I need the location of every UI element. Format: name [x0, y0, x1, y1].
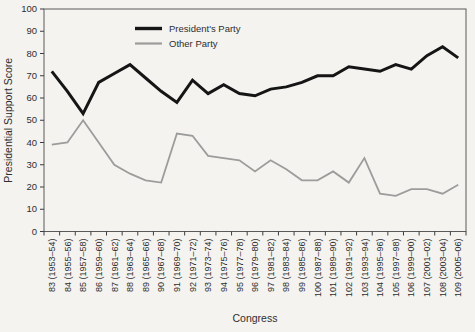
y-tick-label: 40	[26, 137, 37, 148]
x-tick-label: 94 (1975–76)	[219, 239, 229, 293]
x-tick-label: 96 (1979–80)	[250, 239, 260, 293]
x-tick-label: 102 (1991–92)	[344, 239, 354, 298]
plot-frame	[44, 9, 466, 232]
series-line-other-party	[52, 120, 458, 196]
x-tick-label: 97 (1981–82)	[266, 239, 276, 293]
series-line-presidents-party	[52, 47, 458, 114]
x-tick-label: 108 (2003–04)	[438, 239, 448, 298]
x-tick-label: 103 (1993–94)	[360, 239, 370, 298]
legend-label-other-party: Other Party	[169, 38, 218, 49]
x-tick-label: 104 (1995–96)	[375, 239, 385, 298]
x-tick-label: 106 (1999–00)	[406, 239, 416, 298]
x-tick-label: 101 (1989–90)	[328, 239, 338, 298]
y-tick-label: 20	[26, 181, 37, 192]
x-tick-label: 107 (2001–02)	[422, 239, 432, 298]
x-tick-label: 105 (1997–98)	[391, 239, 401, 298]
y-tick-label: 0	[32, 226, 37, 237]
y-tick-label: 80	[26, 48, 37, 59]
x-tick-label: 95 (1977–78)	[235, 239, 245, 293]
y-tick-label: 60	[26, 92, 37, 103]
x-tick-label: 83 (1953–54)	[47, 239, 57, 293]
x-tick-label: 89 (1965–66)	[141, 239, 151, 293]
presidential-support-line-chart: 010203040506070809010083 (1953–54)84 (19…	[0, 0, 475, 332]
x-tick-label: 86 (1959–60)	[94, 239, 104, 293]
x-tick-label: 109 (2005–06)	[453, 239, 463, 298]
x-tick-label: 85 (1957–58)	[78, 239, 88, 293]
y-tick-label: 90	[26, 25, 37, 36]
x-tick-label: 92 (1971–72)	[188, 239, 198, 293]
x-axis-title: Congress	[233, 312, 278, 324]
y-tick-label: 10	[26, 203, 37, 214]
x-tick-label: 100 (1987–88)	[313, 239, 323, 298]
y-tick-label: 70	[26, 70, 37, 81]
x-tick-label: 88 (1963–64)	[125, 239, 135, 293]
x-tick-label: 91 (1969–70)	[172, 239, 182, 293]
x-tick-label: 87 (1961–62)	[110, 239, 120, 293]
legend-label-presidents-party: President's Party	[169, 23, 241, 34]
y-axis-title: Presidential Support Score	[2, 58, 14, 183]
x-tick-label: 90 (1967–68)	[156, 239, 166, 293]
x-tick-label: 84 (1955–56)	[63, 239, 73, 293]
y-tick-label: 100	[21, 3, 37, 14]
x-tick-label: 93 (1973–74)	[203, 238, 213, 292]
chart-figure: 010203040506070809010083 (1953–54)84 (19…	[0, 0, 475, 332]
x-tick-label: 98 (1983–84)	[281, 239, 291, 293]
x-tick-label: 99 (1985–86)	[297, 239, 307, 293]
y-tick-label: 30	[26, 159, 37, 170]
y-tick-label: 50	[26, 114, 37, 125]
